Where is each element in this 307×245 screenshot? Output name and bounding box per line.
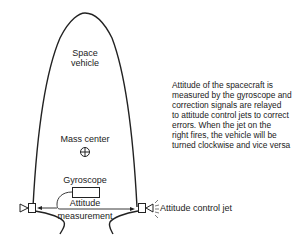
gyroscope-box [73, 188, 100, 198]
attitude-measurement-label-line1: Attitude [55, 198, 115, 208]
gyroscope-label: Gyroscope [55, 175, 115, 185]
left-jet-icon [20, 204, 36, 213]
attitude-control-jet-label: Attitude control jet [160, 203, 232, 213]
mass-center-icon [81, 148, 90, 157]
mass-center-label: Mass center [55, 134, 115, 144]
attitude-measurement-label-line2: measurement [50, 211, 120, 221]
jet-exhaust-icon [155, 200, 159, 218]
space-vehicle-label: Space vehicle [60, 48, 110, 68]
right-jet-icon [139, 204, 154, 213]
left-arrow-icon [37, 206, 42, 210]
description-text: Attitude of the spacecraft is measured b… [172, 80, 307, 150]
right-arrow-icon [130, 207, 135, 211]
